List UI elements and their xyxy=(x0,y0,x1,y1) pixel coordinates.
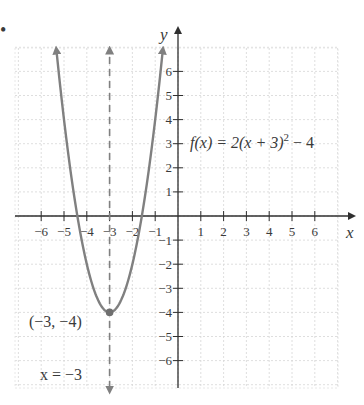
y-tick-label: 2 xyxy=(166,160,173,175)
y-tick-label: −2 xyxy=(158,257,172,272)
x-tick-label: 5 xyxy=(289,224,296,239)
y-tick-label: −6 xyxy=(158,353,172,368)
x-tick-label: 2 xyxy=(220,224,227,239)
x-tick-label: 6 xyxy=(312,224,319,239)
parabola-chart: −6−5−4−3−2−1123456−6−5−4−3−2−1123456 • y… xyxy=(0,0,364,405)
x-axis-label: x xyxy=(345,223,354,242)
function-label: f(x) = 2(x + 3)2 − 4 xyxy=(190,131,314,152)
function-label-lhs: f(x) = 2(x + 3) xyxy=(190,134,284,152)
figure-bullet: • xyxy=(0,20,6,40)
function-label-rhs: − 4 xyxy=(289,134,314,151)
y-axis-label: y xyxy=(158,25,168,44)
y-tick-label: 6 xyxy=(166,64,173,79)
y-tick-label: −3 xyxy=(158,281,172,296)
y-tick-label: −5 xyxy=(158,329,172,344)
x-tick-label: 3 xyxy=(243,224,250,239)
y-tick-label: 4 xyxy=(166,112,173,127)
vertex-point xyxy=(106,309,114,317)
y-tick-label: 3 xyxy=(166,136,173,151)
x-tick-label: 1 xyxy=(198,224,205,239)
y-tick-label: −1 xyxy=(158,233,172,248)
vertex-label: (−3, −4) xyxy=(29,313,82,331)
x-tick-label: −6 xyxy=(34,224,48,239)
axis-of-symmetry-label: x = −3 xyxy=(40,366,82,383)
y-tick-label: 5 xyxy=(166,88,173,103)
axes xyxy=(15,30,352,388)
y-tick-label: −4 xyxy=(158,305,172,320)
x-tick-label: −5 xyxy=(57,224,71,239)
y-tick-label: 1 xyxy=(166,184,173,199)
x-tick-label: 4 xyxy=(266,224,273,239)
